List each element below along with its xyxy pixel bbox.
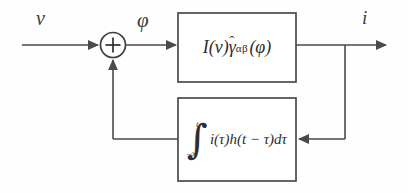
output-signal-label: i xyxy=(362,8,367,27)
forward-argument-term: (φ) xyxy=(249,37,271,58)
error-signal-label: φ xyxy=(137,10,149,31)
forward-gain-term: I(v) xyxy=(203,37,229,58)
integral-operator: t ∫ −∞ xyxy=(187,123,208,157)
block-diagram: v φ i I(v)ˆγαβ (φ) t ∫ −∞ i(τ)h(t − τ)dτ xyxy=(0,0,408,193)
integral-lower-limit: −∞ xyxy=(186,150,198,159)
input-signal-label: v xyxy=(36,8,45,28)
kernel-subscript: αβ xyxy=(236,42,248,54)
forward-kernel-term: ˆγ xyxy=(229,37,236,58)
forward-transfer-block-expression: I(v)ˆγαβ (φ) xyxy=(178,13,296,82)
integral-upper-limit: t xyxy=(196,120,199,129)
feedback-convolution-block-expression: t ∫ −∞ i(τ)h(t − τ)dτ xyxy=(178,98,296,181)
kernel-hat-accent: ˆ xyxy=(229,32,234,50)
integrand-expression: i(τ)h(t − τ)dτ xyxy=(210,131,287,148)
